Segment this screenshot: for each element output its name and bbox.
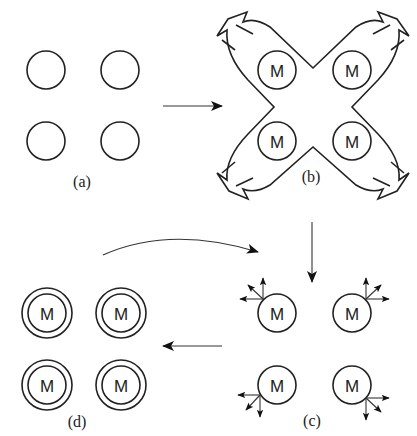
svg-text:M: M	[345, 133, 359, 152]
svg-text:M: M	[345, 62, 359, 81]
empty-circle	[101, 122, 139, 160]
panel-label-a: (a)	[73, 173, 91, 191]
svg-text:M: M	[345, 377, 359, 396]
panel-label-d: (d)	[68, 413, 87, 431]
arm-arrow-tip-lines	[222, 25, 404, 186]
panel-label-c: (c)	[303, 412, 321, 430]
panel-d: M M M M (d)	[22, 288, 146, 431]
empty-circle	[101, 51, 139, 89]
outward-arrows-bottom-right	[366, 398, 389, 420]
svg-text:M: M	[270, 377, 284, 396]
panel-b: M M M M (b)	[217, 12, 409, 199]
svg-text:M: M	[114, 377, 128, 396]
ringed-m-circle: M	[96, 360, 146, 410]
svg-text:M: M	[114, 305, 128, 324]
ringed-m-circle: M	[22, 288, 72, 338]
svg-text:M: M	[270, 62, 284, 81]
panel-c: M M M M	[238, 278, 389, 430]
m-circle: M	[258, 51, 296, 89]
m-circle: M	[333, 122, 371, 160]
panel-a: (a)	[27, 51, 139, 191]
outward-arrows-bottom-left	[238, 395, 260, 417]
empty-circle	[27, 51, 65, 89]
svg-text:M: M	[40, 305, 54, 324]
outward-arrows-top-right	[366, 278, 389, 299]
m-circle: M	[258, 122, 296, 160]
outward-arrows-top-left	[240, 278, 263, 299]
svg-text:M: M	[345, 305, 359, 324]
svg-text:M: M	[270, 305, 284, 324]
curved-arrow-d-to-c	[103, 239, 258, 255]
m-circle: M	[333, 366, 371, 404]
m-circle: M	[258, 294, 296, 332]
panel-label-b: (b)	[302, 168, 321, 186]
svg-text:M: M	[270, 133, 284, 152]
empty-circle	[27, 122, 65, 160]
ringed-m-circle: M	[22, 360, 72, 410]
m-circle: M	[333, 294, 371, 332]
ringed-m-circle: M	[96, 288, 146, 338]
m-circle: M	[333, 51, 371, 89]
svg-text:M: M	[40, 377, 54, 396]
m-circle: M	[258, 366, 296, 404]
diagram-canvas: (a) M M M M (b)	[0, 0, 417, 436]
